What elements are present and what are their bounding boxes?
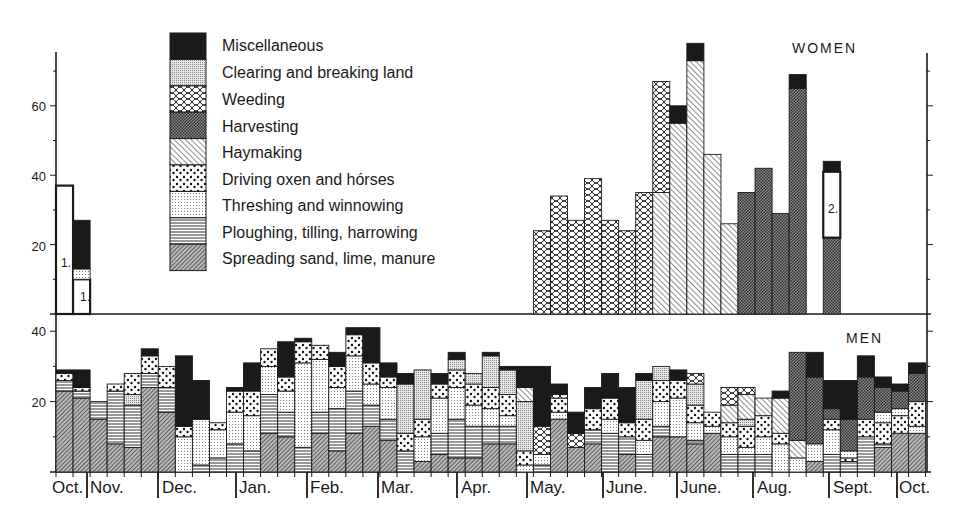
legend-label-weeding: Weeding [222,90,285,110]
legend-label-spreading: Spreading sand, lime, manure [222,249,435,269]
month-label: Apr. [461,478,491,498]
legend-label-threshing: Threshing and winnowing [222,196,403,216]
women-ytick-60: 60 [18,99,46,114]
men-panel-title: MEN [846,330,883,346]
month-label: Dec. [162,478,197,498]
month-label: Sept. [833,478,873,498]
legend-label-ploughing: Ploughing, tilling, harrowing [222,223,418,243]
men-bars [56,328,926,472]
men-ytick-40: 40 [18,324,46,339]
women-note-2: 2. [828,202,838,216]
women-note-1a: 1. [61,256,71,270]
month-label: June. [606,478,648,498]
women-panel-title: WOMEN [792,40,857,56]
month-label: Aug. [757,478,792,498]
month-label: Feb. [310,478,344,498]
month-label: Nov. [90,478,124,498]
legend-label-harvesting: Harvesting [222,117,298,137]
men-ytick-20: 20 [18,395,46,410]
legend-label-clearing: Clearing and breaking land [222,63,413,83]
legend-label-haymaking: Haymaking [222,143,302,163]
month-label: Jan. [239,478,271,498]
women-note-1b: 1. [80,290,90,304]
month-label: Mar. [381,478,414,498]
legend-swatches [170,33,206,271]
month-label: Oct. [52,478,83,498]
legend-label-driving: Driving oxen and hórses [222,170,395,190]
month-label: Oct. [899,478,930,498]
farm-labour-chart [0,0,962,522]
women-ytick-20: 20 [18,239,46,254]
legend-label-miscellaneous: Miscellaneous [222,36,323,56]
women-ytick-40: 40 [18,169,46,184]
month-label: June. [680,478,722,498]
month-label: May. [530,478,566,498]
